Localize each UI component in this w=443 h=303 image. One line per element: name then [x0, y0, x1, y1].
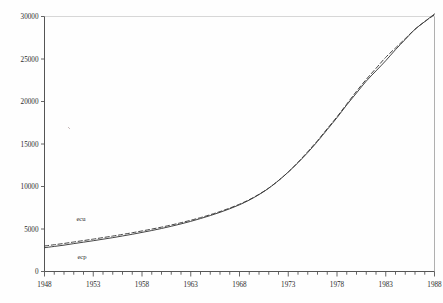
x-tick-label: 1968	[232, 281, 247, 289]
y-tick-label: 10000	[21, 183, 39, 191]
x-tick-label: 1953	[86, 281, 101, 289]
series-line-ecu	[45, 14, 435, 248]
y-tick-label: 20000	[21, 98, 39, 106]
y-axis-ticks: 050001000015000200002500030000	[21, 13, 45, 276]
x-tick-label: 1973	[281, 281, 296, 289]
y-tick-label: 0	[35, 268, 39, 276]
y-tick-label: 15000	[21, 141, 39, 149]
x-tick-label: 1983	[379, 281, 394, 289]
figure-page: 0500010000150002000025000300001948195319…	[0, 0, 443, 303]
x-tick-label: 1948	[37, 281, 52, 289]
x-tick-label: 1963	[184, 281, 199, 289]
y-tick-label: 30000	[21, 13, 39, 21]
axes-frame	[45, 17, 435, 272]
x-tick-label: 1958	[135, 281, 150, 289]
x-tick-label: 1978	[330, 281, 345, 289]
y-tick-label: 5000	[24, 226, 39, 234]
series-line-ecp	[45, 15, 435, 246]
series-label-upper: ecu	[76, 215, 86, 222]
series-label-lower: ecp	[77, 253, 87, 260]
x-axis-ticks: 194819531958196319681973197819831988	[37, 272, 442, 289]
line-chart: 0500010000150002000025000300001948195319…	[0, 0, 443, 303]
x-tick-label: 1988	[427, 281, 442, 289]
series-group	[45, 14, 435, 248]
series-annotations: ecuecp	[76, 215, 87, 260]
chart-canvas: 0500010000150002000025000300001948195319…	[0, 0, 443, 303]
y-tick-label: 25000	[21, 56, 39, 64]
